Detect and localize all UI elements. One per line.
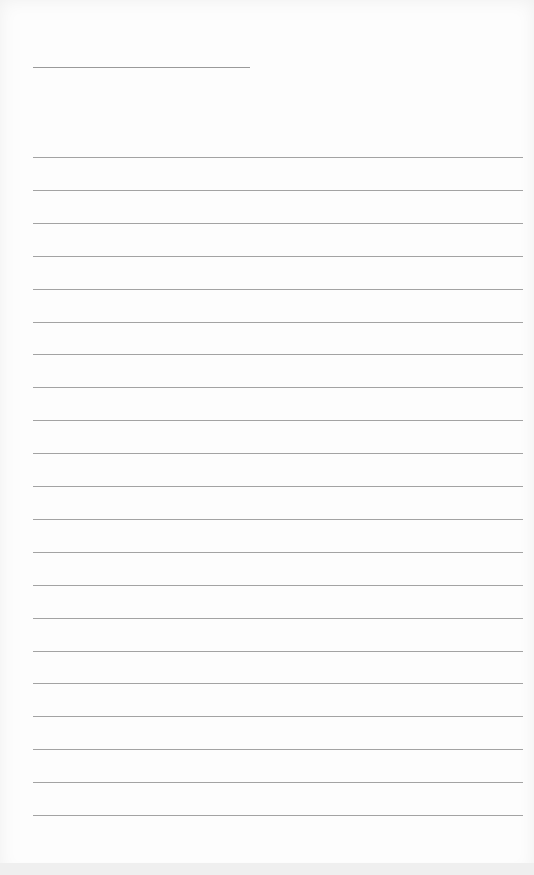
ruled-line [33,289,523,290]
ruled-line [33,354,523,355]
ruled-line [33,486,523,487]
ruled-line [33,683,523,684]
ruled-line [33,190,523,191]
ruled-line [33,618,523,619]
ruled-line [33,815,523,816]
ruled-line [33,651,523,652]
ruled-line [33,322,523,323]
ruled-line [33,157,523,158]
ruled-line [33,453,523,454]
ruled-line [33,716,523,717]
ruled-line [33,519,523,520]
ruled-line [33,749,523,750]
ruled-line [33,552,523,553]
ruled-line [33,420,523,421]
ruled-line [33,387,523,388]
ruled-line [33,223,523,224]
ruled-line [33,585,523,586]
ruled-line [33,256,523,257]
ruled-line [33,782,523,783]
title-line [33,67,250,68]
lined-paper-page [0,0,534,875]
page-bottom-edge [0,863,534,875]
